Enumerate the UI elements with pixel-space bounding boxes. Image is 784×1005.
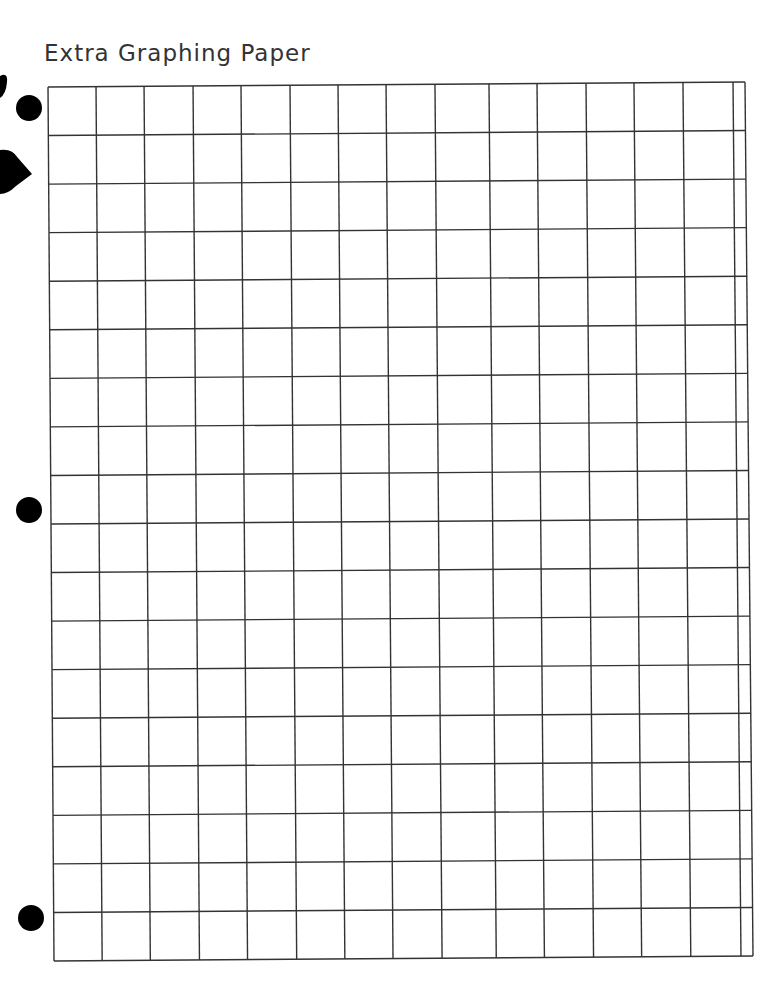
grid-row-line <box>51 568 749 573</box>
grid-row-line <box>53 810 752 815</box>
grid-row-line <box>49 179 746 184</box>
grid-row-line <box>51 519 749 524</box>
grid-row-line <box>52 616 750 621</box>
grid-row-line <box>51 470 749 475</box>
grid-row-line <box>48 131 745 136</box>
grid-row-line <box>48 82 745 87</box>
grid-row-line <box>52 713 750 718</box>
grid-row-line <box>54 907 753 912</box>
grid-row-line <box>53 859 752 864</box>
grid-row-line <box>52 665 750 670</box>
graph-grid[interactable] <box>0 0 784 1005</box>
grid-row-line <box>54 956 753 961</box>
grid-row-line <box>50 325 748 330</box>
grid-row-line <box>50 422 748 427</box>
grid-row-line <box>49 276 746 281</box>
grid-row-line <box>49 228 746 233</box>
grid-row-line <box>50 373 748 378</box>
grid-row-line <box>53 762 752 767</box>
